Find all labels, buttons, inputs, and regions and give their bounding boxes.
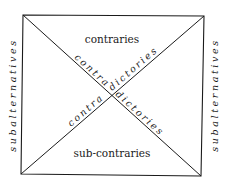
contraries-label: contraries: [85, 33, 139, 45]
subalternatives-left-label: subalternatives: [7, 38, 18, 151]
contradictories-bl-tr-first-label: contra: [65, 91, 106, 128]
contradictories-bl-tr-second-label: dictories: [106, 44, 160, 93]
subalternatives-right-label: subalternatives: [209, 38, 220, 151]
contradictories-tl-br-second-label: dictories: [114, 88, 167, 138]
square-of-opposition-diagram: contraries sub-contraries subalternative…: [0, 0, 227, 184]
sub-contraries-label: sub-contraries: [74, 147, 151, 159]
